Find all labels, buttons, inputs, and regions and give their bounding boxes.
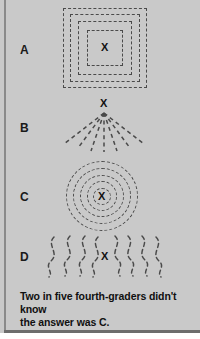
wave-l2: [79, 236, 85, 276]
figure-plate: A X B X: [6, 0, 200, 330]
diagram-d-wavy-lines: X: [40, 231, 162, 281]
ray-r2: [104, 113, 130, 148]
caption-line-1: Two in five fourth-graders didn't know: [20, 290, 192, 316]
center-marker-a: X: [101, 42, 108, 53]
option-row-c: C X: [6, 161, 200, 231]
wave-l3: [64, 236, 70, 276]
frame-outer-margin: [0, 333, 200, 339]
wave-l1: [92, 237, 98, 277]
ray-l2: [78, 113, 104, 148]
wave-r2: [128, 236, 134, 276]
option-row-b: B X: [6, 96, 200, 162]
diagram-a-nested-squares: X: [63, 8, 147, 88]
caption-line-2: the answer was C.: [20, 316, 192, 329]
wave-r4: [156, 237, 162, 277]
center-marker-b: X: [100, 98, 107, 109]
diagram-c-concentric-circles: X: [66, 161, 138, 231]
wave-l4: [48, 237, 54, 277]
center-marker-d: X: [101, 251, 108, 262]
wave-r1: [115, 236, 121, 276]
option-label-a: A: [20, 44, 29, 56]
center-marker-c: X: [98, 191, 105, 202]
diagram-b-dashed-rays: X: [55, 96, 155, 158]
option-row-a: A X: [6, 6, 200, 90]
wave-r3: [142, 236, 148, 276]
figure-caption: Two in five fourth-graders didn't know t…: [20, 290, 192, 329]
option-label-c: C: [20, 191, 29, 203]
option-label-b: B: [20, 122, 29, 134]
option-label-d: D: [20, 251, 29, 263]
illustration-figure: A X B X: [0, 0, 200, 339]
option-row-d: D X: [6, 231, 200, 283]
